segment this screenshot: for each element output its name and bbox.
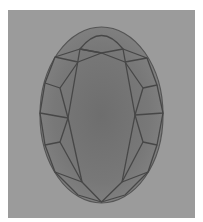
- oval-gemstone: [0, 0, 203, 222]
